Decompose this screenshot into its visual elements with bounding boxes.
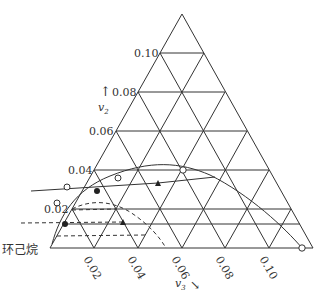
left-tick-004: 0.04 <box>68 164 93 177</box>
left-tick-008: 0.08 <box>112 86 137 99</box>
v2-axis-label: v2 <box>98 101 109 116</box>
left-tick-002: 0.02 <box>44 203 69 216</box>
v3-arrow-icon: ↘ <box>190 278 200 292</box>
left-tick-006: 0.06 <box>89 125 114 138</box>
left-tick-010: 0.10 <box>134 47 159 60</box>
v3-axis-label: v3 <box>175 277 186 292</box>
diagram-graphics <box>0 0 325 300</box>
v2-arrow-icon: ↑ <box>100 84 111 99</box>
tie-line <box>31 177 215 191</box>
ternary-diagram: 环己烷 0.10 0.08 0.06 0.04 0.02 ↑ v2 0.02 0… <box>0 0 325 300</box>
corner-label: 环己烷 <box>2 240 38 257</box>
